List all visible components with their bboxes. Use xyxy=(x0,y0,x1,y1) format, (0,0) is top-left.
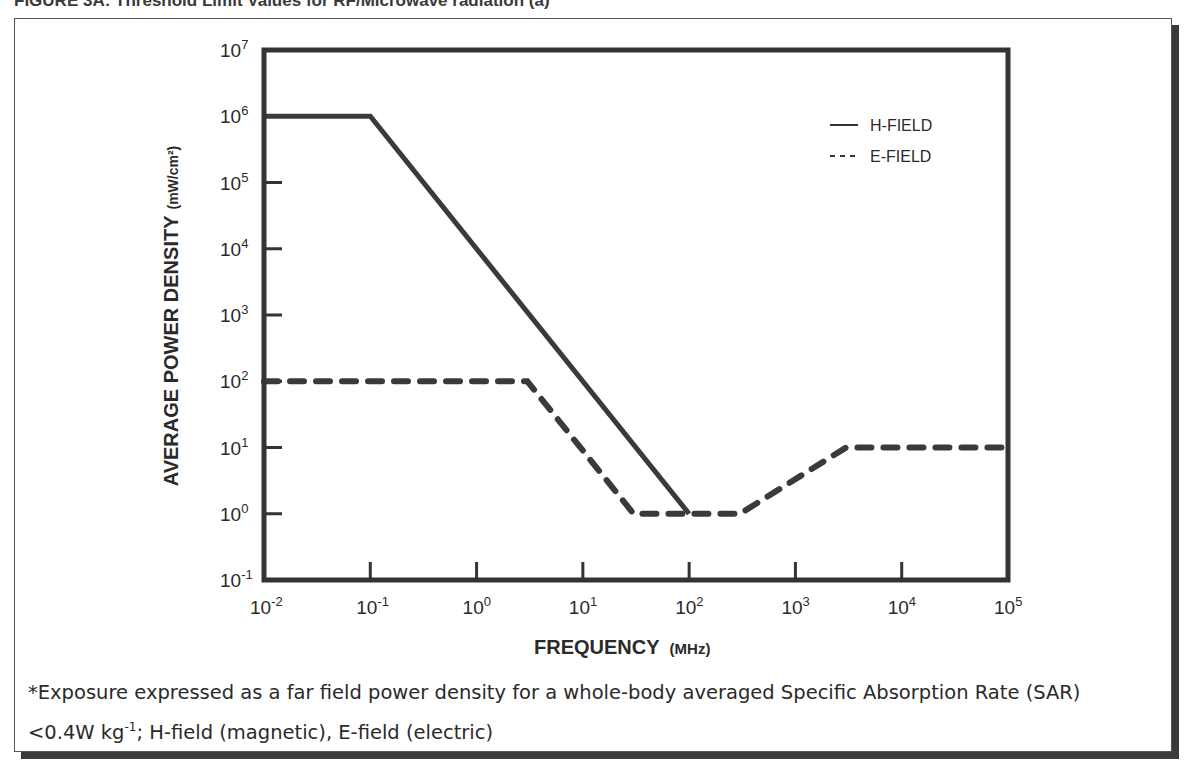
x-tick-label: 103 xyxy=(781,594,809,618)
y-axis-title: AVERAGE POWER DENSITY(mW/cm²) xyxy=(160,146,182,487)
h-field-line xyxy=(264,116,689,514)
y-tick-label: 10-1 xyxy=(220,567,253,591)
y-tick-label: 103 xyxy=(220,302,248,326)
x-tick-label: 10-2 xyxy=(250,594,283,618)
legend-item-h-field: H-FIELD xyxy=(830,117,932,134)
chart: 10-210-1100101102103104105 1071061051041… xyxy=(0,0,1190,760)
x-tick-label: 101 xyxy=(569,594,597,618)
svg-text:E-FIELD: E-FIELD xyxy=(870,148,931,165)
legend-item-e-field: E-FIELD xyxy=(830,148,931,165)
legend: H-FIELD E-FIELD xyxy=(830,117,932,165)
y-tick-label: 107 xyxy=(220,37,248,61)
y-tick-label: 105 xyxy=(220,170,248,194)
y-tick-label: 100 xyxy=(220,501,248,525)
x-tick-label: 104 xyxy=(888,594,916,618)
x-tick-label: 105 xyxy=(994,594,1022,618)
footnote-line-2: <0.4W kg-1; H-field (magnetic), E-field … xyxy=(28,710,1168,750)
y-tick-label: 101 xyxy=(220,435,248,459)
footnote: *Exposure expressed as a far field power… xyxy=(28,676,1168,750)
x-tick-labels: 10-210-1100101102103104105 xyxy=(250,594,1022,618)
y-tick-label: 104 xyxy=(220,236,248,260)
x-tick-label: 102 xyxy=(675,594,703,618)
y-tick-labels: 10710610510410310210110010-1 xyxy=(220,37,253,591)
footnote-line-1: *Exposure expressed as a far field power… xyxy=(28,676,1168,710)
x-axis-title: FREQUENCY(MHz) xyxy=(534,636,710,658)
x-tick-label: 100 xyxy=(463,594,491,618)
y-tick-label: 106 xyxy=(220,103,248,127)
y-tick-label: 102 xyxy=(220,368,248,392)
svg-text:H-FIELD: H-FIELD xyxy=(870,117,932,134)
data-series xyxy=(264,116,1008,514)
x-tick-label: 10-1 xyxy=(356,594,389,618)
